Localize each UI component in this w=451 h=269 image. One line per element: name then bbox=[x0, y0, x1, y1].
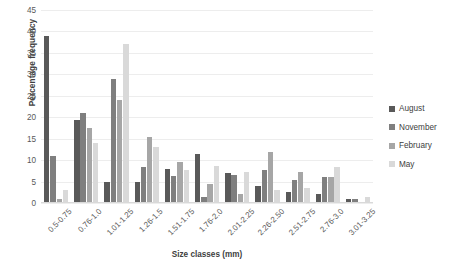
legend-item[interactable]: February bbox=[389, 141, 437, 150]
bar-group bbox=[343, 10, 373, 203]
bar bbox=[225, 173, 230, 203]
x-axis-tick-cell: 0.5-0.75 bbox=[41, 205, 71, 250]
y-axis-tick-label: 45 bbox=[27, 6, 36, 15]
bar bbox=[244, 172, 249, 203]
bar bbox=[184, 170, 189, 203]
bar bbox=[117, 100, 122, 203]
x-axis-tick-label: 0.76-1.0 bbox=[77, 207, 104, 234]
x-axis-tick-labels: 0.5-0.750.76-1.01.01-1.251.26-1.51.51-1.… bbox=[41, 205, 373, 250]
legend-item[interactable]: August bbox=[389, 104, 437, 113]
bar bbox=[165, 169, 170, 203]
legend-item[interactable]: May bbox=[389, 160, 437, 169]
x-axis-tick-cell: 2.51-2.75 bbox=[283, 205, 313, 250]
x-axis-tick-label: 1.76-2.0 bbox=[197, 207, 224, 234]
bar bbox=[135, 182, 140, 203]
bar bbox=[334, 167, 339, 203]
y-axis-tick-label: 20 bbox=[27, 113, 36, 122]
bar bbox=[328, 177, 333, 203]
bar bbox=[80, 113, 85, 203]
bar bbox=[195, 154, 200, 203]
bar-group bbox=[252, 10, 282, 203]
x-axis-title: Size classes (mm) bbox=[41, 250, 373, 259]
bar-group bbox=[71, 10, 101, 203]
bar-group bbox=[222, 10, 252, 203]
bar bbox=[153, 147, 158, 203]
bar bbox=[177, 162, 182, 203]
x-axis-tick-cell: 1.26-1.5 bbox=[132, 205, 162, 250]
bar bbox=[44, 36, 49, 203]
y-axis-tick-label: 0 bbox=[31, 199, 36, 208]
bar bbox=[123, 44, 128, 203]
legend-swatch-icon bbox=[389, 124, 395, 130]
bar-chart: Percentage frequency 051015202530354045 … bbox=[0, 0, 451, 269]
bar bbox=[268, 152, 273, 203]
x-axis-tick-label: 1.26-1.5 bbox=[137, 207, 164, 234]
bar bbox=[255, 186, 260, 203]
legend-label: August bbox=[399, 104, 425, 113]
bar bbox=[104, 182, 109, 203]
bar-groups bbox=[41, 10, 373, 203]
bar bbox=[111, 79, 116, 203]
x-axis-tick-cell: 1.76-2.0 bbox=[192, 205, 222, 250]
legend-label: May bbox=[399, 160, 414, 169]
y-axis-tick-label: 10 bbox=[27, 156, 36, 165]
x-axis-tick-label: 0.5-0.75 bbox=[46, 207, 73, 234]
bar bbox=[292, 180, 297, 203]
bar-group bbox=[313, 10, 343, 203]
y-axis-tick-label: 5 bbox=[31, 177, 36, 186]
x-axis-tick-cell: 2.01-2.25 bbox=[222, 205, 252, 250]
bar bbox=[207, 184, 212, 203]
bar bbox=[147, 137, 152, 203]
x-axis-tick-cell: 2.26-2.50 bbox=[252, 205, 282, 250]
x-axis-tick-cell: 0.76-1.0 bbox=[71, 205, 101, 250]
bar bbox=[304, 188, 309, 203]
bar-group bbox=[132, 10, 162, 203]
legend-label: February bbox=[399, 141, 432, 150]
x-axis-tick-cell: 2.76-3.0 bbox=[313, 205, 343, 250]
y-axis-tick-label: 40 bbox=[27, 27, 36, 36]
x-axis-tick-label: 3.01-3.25 bbox=[347, 207, 377, 237]
bar bbox=[50, 156, 55, 203]
x-axis-tick-cell: 3.01-3.25 bbox=[343, 205, 373, 250]
x-axis-tick-label: 2.76-3.0 bbox=[318, 207, 345, 234]
bar bbox=[74, 120, 79, 203]
bar bbox=[93, 143, 98, 203]
bar bbox=[171, 176, 176, 203]
legend: AugustNovemberFebruaryMay bbox=[389, 104, 437, 169]
bar bbox=[322, 177, 327, 203]
bar bbox=[214, 166, 219, 203]
legend-label: November bbox=[399, 123, 437, 132]
x-axis-tick-cell: 1.01-1.25 bbox=[101, 205, 131, 250]
bar-group bbox=[41, 10, 71, 203]
y-axis-tick-label: 35 bbox=[27, 48, 36, 57]
y-axis-tick-label: 30 bbox=[27, 70, 36, 79]
bar bbox=[231, 175, 236, 203]
bar bbox=[87, 128, 92, 203]
bar-group bbox=[192, 10, 222, 203]
legend-swatch-icon bbox=[389, 161, 395, 167]
bar-group bbox=[283, 10, 313, 203]
legend-item[interactable]: November bbox=[389, 123, 437, 132]
bar bbox=[298, 172, 303, 203]
legend-swatch-icon bbox=[389, 143, 395, 149]
x-axis-line bbox=[41, 202, 373, 203]
x-axis-tick-cell: 1.51-1.75 bbox=[162, 205, 192, 250]
y-axis-tick-label: 15 bbox=[27, 134, 36, 143]
y-axis-tick-label: 25 bbox=[27, 91, 36, 100]
gridline bbox=[41, 203, 373, 204]
bar bbox=[262, 170, 267, 203]
bar-group bbox=[101, 10, 131, 203]
plot-area: 051015202530354045 bbox=[41, 10, 373, 203]
bar-group bbox=[162, 10, 192, 203]
legend-swatch-icon bbox=[389, 106, 395, 112]
bar bbox=[141, 167, 146, 203]
